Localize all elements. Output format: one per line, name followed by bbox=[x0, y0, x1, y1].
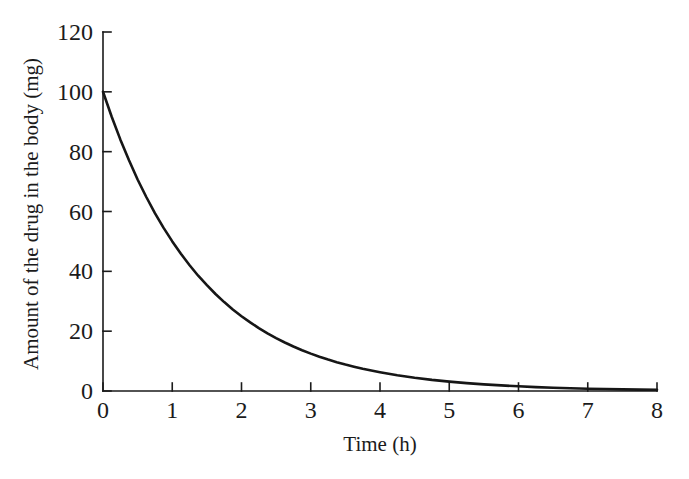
x-tick-label: 0 bbox=[97, 397, 109, 423]
x-tick-label: 5 bbox=[443, 397, 455, 423]
drug-decay-chart: 020406080100120012345678 Amount of the d… bbox=[0, 0, 689, 479]
x-axis-title: Time (h) bbox=[343, 432, 416, 457]
x-tick-label: 4 bbox=[374, 397, 386, 423]
x-tick-label: 6 bbox=[513, 397, 525, 423]
axes bbox=[103, 32, 657, 391]
y-tick-label: 0 bbox=[81, 378, 93, 404]
decay-curve bbox=[103, 92, 657, 390]
y-tick-label: 120 bbox=[57, 19, 93, 45]
y-tick-label: 80 bbox=[69, 139, 93, 165]
y-tick-label: 40 bbox=[69, 258, 93, 284]
x-tick-label: 3 bbox=[305, 397, 317, 423]
y-tick-label: 100 bbox=[57, 79, 93, 105]
x-tick-label: 8 bbox=[651, 397, 663, 423]
y-tick-label: 20 bbox=[69, 318, 93, 344]
plot-area: 020406080100120012345678 bbox=[0, 0, 689, 479]
x-tick-label: 2 bbox=[236, 397, 248, 423]
y-tick-label: 60 bbox=[69, 199, 93, 225]
y-axis-title: Amount of the drug in the body (mg) bbox=[19, 58, 44, 370]
x-tick-label: 1 bbox=[166, 397, 178, 423]
x-tick-label: 7 bbox=[582, 397, 594, 423]
